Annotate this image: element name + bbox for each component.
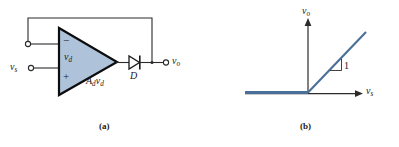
caption-panel-b: (b) — [300, 122, 311, 131]
feedback-junction-dot — [151, 61, 154, 64]
noninverting-input-sign: + — [63, 71, 69, 82]
y-axis-label: vo — [302, 6, 310, 18]
figure-canvas — [0, 0, 399, 147]
caption-panel-a: (a) — [99, 122, 110, 131]
source-input-label: vs — [10, 62, 17, 74]
differential-input-label: vd — [64, 52, 72, 64]
x-axis-label: vs — [366, 86, 373, 98]
slope-value-label: 1 — [344, 61, 349, 71]
source-terminal-node — [28, 65, 33, 70]
diode-symbol — [129, 56, 140, 70]
gain-expression-label: Advd — [86, 76, 104, 88]
x-axis-arrowhead — [355, 90, 363, 97]
diode-label: D — [130, 71, 137, 81]
y-axis-arrowhead — [305, 18, 312, 26]
curve-slope-segment — [308, 32, 366, 93]
circuit-output-label: vo — [172, 56, 180, 68]
inverting-input-node — [25, 41, 30, 46]
diode-anode-triangle — [129, 56, 140, 69]
inverting-input-sign: − — [63, 35, 69, 46]
output-terminal-node — [163, 60, 168, 65]
panel-b-plot — [245, 18, 366, 97]
